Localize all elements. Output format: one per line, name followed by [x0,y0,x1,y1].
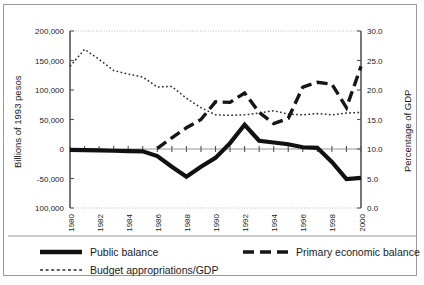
y-left-tick-label: -50,000 [37,175,65,184]
y-axis-right-title: Percentage of GDP [402,90,413,172]
x-tick-label: 1986 [154,213,163,231]
y-right-tick-label: 10.0 [367,145,383,154]
y-left-tick-label: 100,000 [35,86,64,95]
x-tick-label: 1998 [328,213,337,231]
x-tick-label: 1982 [96,213,105,231]
legend-label-public-balance: Public balance [90,246,158,258]
y-right-tick-label: 5.0 [367,175,379,184]
y-right-tick-label: 15.0 [367,116,383,125]
y-right-tick-label: 25.0 [367,57,383,66]
x-tick-label: 1980 [67,213,76,231]
chart-figure: 200,000150,000100,00050,0000-50,000100,0… [0,0,424,285]
chart-canvas: 200,000150,000100,00050,0000-50,000100,0… [0,0,424,285]
y-left-tick-label: 100,000 [35,204,64,213]
y-right-tick-label: 30.0 [367,27,383,36]
x-tick-label: 1984 [125,213,134,231]
x-tick-label: 1994 [270,213,279,231]
y-left-tick-label: 150,000 [35,57,64,66]
y-left-tick-label: 50,000 [40,116,65,125]
y-axis-left-ticks: 200,000150,000100,00050,0000-50,000100,0… [35,27,74,213]
legend-label-primary-economic-balance: Primary economic balance [296,246,420,258]
x-tick-label: 1992 [241,213,250,231]
series-line-primary-economic-balance [157,66,361,148]
y-axis-left-title: Billions of 1993 pesos [12,75,23,168]
x-tick-label: 1988 [183,213,192,231]
y-right-tick-label: 20.0 [367,86,383,95]
x-tick-label: 1990 [212,213,221,231]
legend-label-budget-appropriations-gdp: Budget appropriations/GDP [90,264,218,276]
y-left-tick-label: 200,000 [35,27,64,36]
y-right-tick-label: 0.0 [367,204,379,213]
chart-legend: Public balance Primary economic balance … [8,236,420,276]
plot-area-bounds [70,31,361,208]
x-tick-label: 1996 [299,213,308,231]
x-tick-label: 2000 [358,213,367,231]
y-left-tick-label: 0 [60,145,65,154]
